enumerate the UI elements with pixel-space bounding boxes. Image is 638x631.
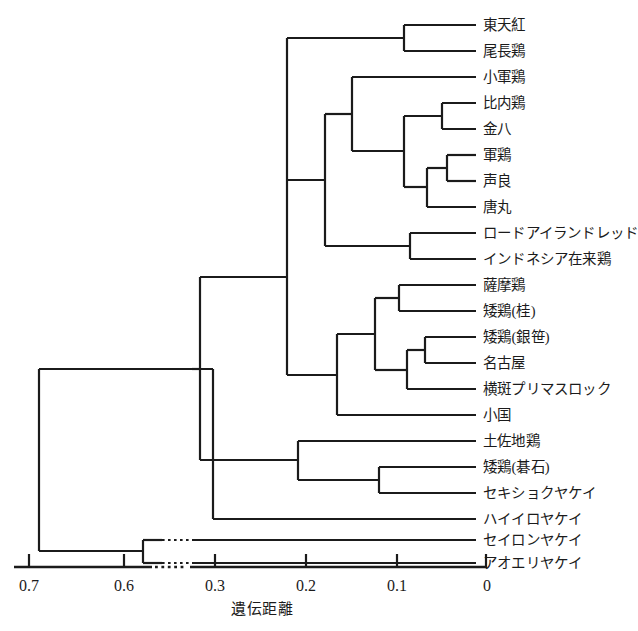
leaf-label-chabo-ginzasa: 矮鶏(銀笹) (483, 330, 550, 345)
leaf-label-green-junglefowl: アオエリヤケイ (483, 556, 582, 571)
leaf-label-tosa-jidori: 土佐地鶏 (483, 434, 540, 449)
leaf-label-koera: 声良 (483, 174, 511, 189)
leaf-label-onagadori: 尾長鶏 (483, 44, 526, 59)
leaf-label-kogunkei: 小軍鶏 (483, 70, 526, 85)
axis-title: 遺伝距離 (231, 602, 293, 617)
leaf-label-kinpachi: 金八 (483, 122, 511, 137)
axis-tick-label-0-2: 0.2 (296, 578, 316, 594)
axis-tick-label-0: 0 (483, 578, 491, 594)
leaf-label-shamo: 軍鶏 (483, 148, 511, 163)
leaf-label-satsumadori: 薩摩鶏 (483, 278, 526, 293)
leaf-label-karamaru: 唐丸 (483, 200, 511, 215)
axis-tick-label-0-6: 0.6 (114, 578, 134, 594)
leaf-label-nagoya: 名古屋 (483, 356, 526, 371)
leaf-label-shoukoku: 小国 (483, 408, 511, 423)
leaf-label-red-junglefowl: セキショクヤケイ (483, 486, 597, 501)
axis-tick-label-0-1: 0.1 (387, 578, 407, 594)
axis-tick-label-0-7: 0.7 (19, 578, 39, 594)
leaf-label-indonesia-native: インドネシア在来鶏 (483, 252, 611, 267)
leaf-label-barred-plymouth-rock: 横斑プリマスロック (483, 382, 611, 397)
leaf-label-chabo-katsura: 矮鶏(桂) (483, 304, 536, 319)
leaf-label-chabo-goishi: 矮鶏(碁石) (483, 460, 550, 475)
leaf-label-rhode-island-red: ロードアイランドレッド (483, 226, 638, 241)
leaf-label-ceylon-junglefowl: セイロンヤケイ (483, 533, 582, 548)
tree-branch-lines (14, 25, 487, 567)
leaf-label-toutenkou: 東天紅 (483, 18, 526, 33)
leaf-label-grey-junglefowl: ハイイロヤケイ (483, 512, 582, 527)
leaf-label-hinaidori: 比内鶏 (483, 96, 526, 111)
axis-tick-label-0-3: 0.3 (205, 578, 225, 594)
